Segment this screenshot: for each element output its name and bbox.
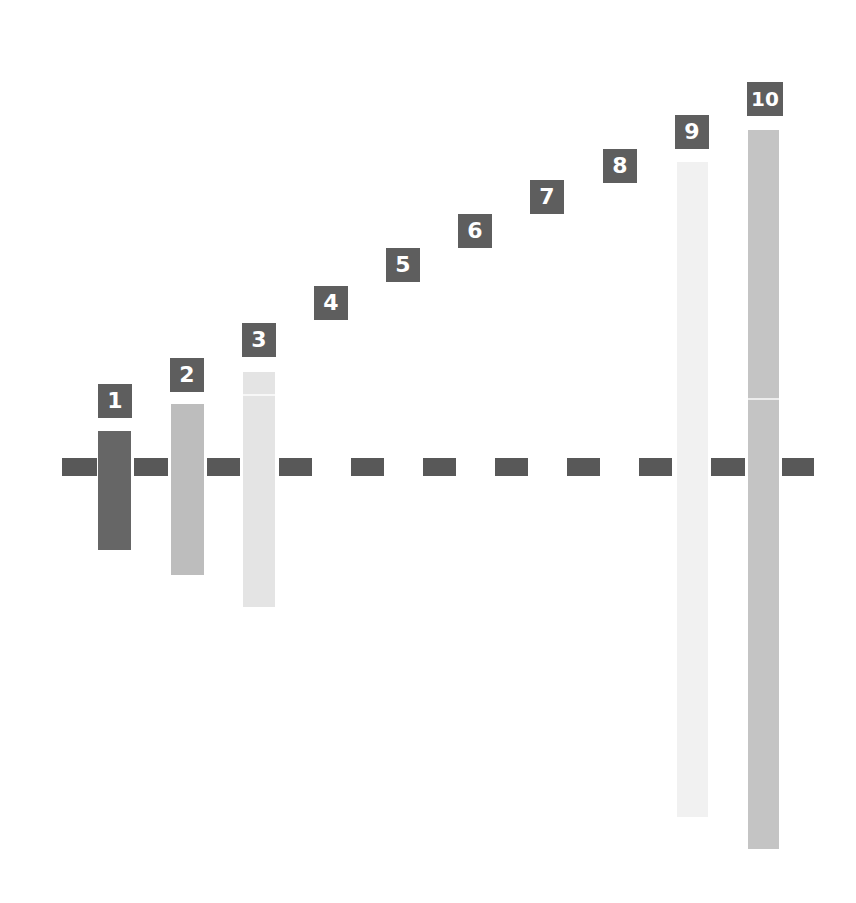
baseline-dash [351, 458, 384, 476]
label-10: 10 [747, 82, 783, 116]
baseline-dash [782, 458, 814, 476]
label-3: 3 [242, 323, 276, 357]
bar-10 [748, 130, 779, 849]
bar-3 [243, 372, 275, 607]
label-7: 7 [530, 180, 564, 214]
baseline-dash [279, 458, 312, 476]
baseline-dash [567, 458, 600, 476]
label-6: 6 [458, 214, 492, 248]
label-5: 5 [386, 248, 420, 282]
bar-1 [98, 431, 131, 550]
baseline-dash [134, 458, 168, 476]
baseline-dash [639, 458, 672, 476]
baseline-dash [207, 458, 240, 476]
label-8: 8 [603, 149, 637, 183]
baseline-dash [711, 458, 745, 476]
label-2: 2 [170, 358, 204, 392]
baseline-dash [495, 458, 528, 476]
label-1: 1 [98, 384, 132, 418]
label-9: 9 [675, 115, 709, 149]
baseline-dash [62, 458, 97, 476]
bar-2 [171, 404, 204, 575]
bar-9 [677, 162, 708, 817]
baseline-dash [423, 458, 456, 476]
label-4: 4 [314, 286, 348, 320]
